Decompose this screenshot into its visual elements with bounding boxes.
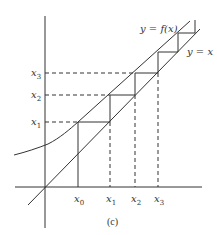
fixed-point-iteration-diagram: y = f(x) y = x x1 x2 x3 x0 x1 x2 x3 (c)	[0, 0, 217, 235]
diagonal-line	[28, 29, 200, 205]
x-tick-x2: x2	[131, 193, 141, 207]
x-tick-x3: x3	[154, 193, 164, 207]
x-tick-x1: x1	[106, 193, 116, 207]
y-tick-x3: x3	[31, 67, 41, 81]
diagonal-label: y = x	[186, 46, 213, 57]
y-tick-x1: x1	[31, 116, 41, 130]
curve-label: y = f(x)	[139, 23, 178, 34]
function-curve	[14, 21, 190, 155]
y-tick-x2: x2	[31, 89, 41, 103]
x-tick-x0: x0	[74, 193, 84, 207]
cobweb-path	[78, 20, 195, 187]
figure-caption: (c)	[107, 216, 118, 228]
